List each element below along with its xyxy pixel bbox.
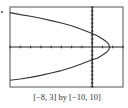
calculator-graph-window	[0, 0, 128, 92]
window-range-caption: [−8, 3] by [−10, 10]	[0, 92, 128, 102]
